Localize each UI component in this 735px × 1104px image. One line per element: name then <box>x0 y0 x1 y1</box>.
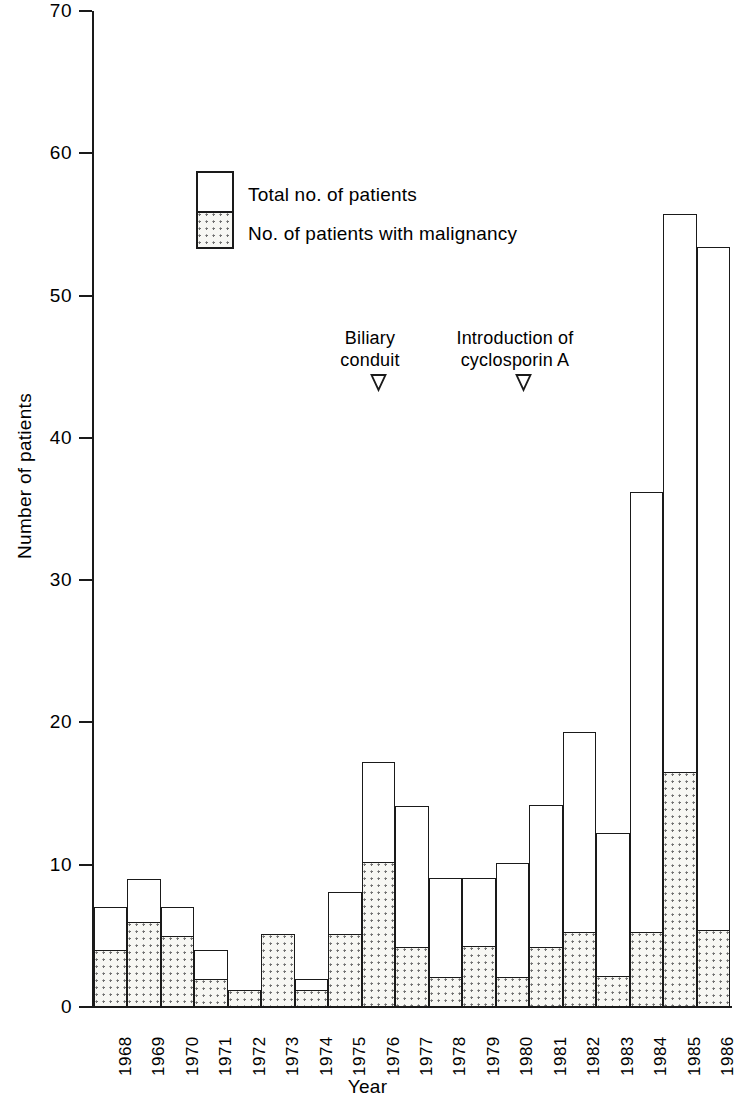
annotation-cyclosporin-line2: cyclosporin A <box>461 350 570 370</box>
x-axis-tick-label: 1986 <box>719 1006 735 1076</box>
bar-group[interactable] <box>697 11 730 1007</box>
legend-label-total: Total no. of patients <box>248 185 417 204</box>
x-axis-tick-label: 1977 <box>418 1006 435 1076</box>
x-axis-tick-label: 1979 <box>485 1006 502 1076</box>
x-axis-tick-label: 1974 <box>318 1006 335 1076</box>
x-axis-tick-label: 1983 <box>619 1006 636 1076</box>
bar-segment-total <box>630 492 663 1007</box>
bar-group[interactable] <box>261 11 294 1007</box>
bar-group[interactable] <box>295 11 328 1007</box>
legend-label-malignancy: No. of patients with malignancy <box>248 224 517 243</box>
x-axis-tick-label: 1970 <box>184 1006 201 1076</box>
annotation-biliary-line1: Biliary <box>345 328 395 348</box>
x-axis-tick-label: 1971 <box>217 1006 234 1076</box>
annotation-biliary-line2: conduit <box>340 350 399 370</box>
x-axis-tick-label: 1980 <box>518 1006 535 1076</box>
y-axis-tick <box>79 10 92 12</box>
bar-segment-malignancy <box>194 979 227 1007</box>
bar-group[interactable] <box>529 11 562 1007</box>
bar-group[interactable] <box>94 11 127 1007</box>
y-axis-tick <box>79 864 92 866</box>
bar-segment-malignancy <box>161 936 194 1007</box>
y-axis-tick-label: 50 <box>12 286 72 305</box>
bar-segment-malignancy <box>663 772 696 1007</box>
y-axis-tick-label: 10 <box>12 855 72 874</box>
bar-segment-malignancy <box>395 947 428 1007</box>
y-axis-tick <box>79 437 92 439</box>
chart-figure: 010203040506070 Number of patients 19681… <box>0 0 735 1104</box>
bar-segment-malignancy <box>261 934 294 1007</box>
legend-swatch-malignancy-fill <box>198 211 232 247</box>
x-axis-tick-label: 1972 <box>251 1006 268 1076</box>
bar-segment-malignancy <box>697 930 730 1007</box>
y-axis-tick-label: 70 <box>12 1 72 20</box>
x-axis-tick-label: 1984 <box>652 1006 669 1076</box>
bar-group[interactable] <box>362 11 395 1007</box>
bar-group[interactable] <box>194 11 227 1007</box>
y-axis-tick <box>79 579 92 581</box>
bar-group[interactable] <box>328 11 361 1007</box>
x-axis-tick-label: 1968 <box>117 1006 134 1076</box>
x-axis-tick-label: 1973 <box>284 1006 301 1076</box>
x-axis-tick-labels: 1968196919701971197219731974197519761977… <box>94 1010 730 1080</box>
y-axis-title: Number of patients <box>14 366 36 586</box>
bar-segment-malignancy <box>563 932 596 1007</box>
bar-group[interactable] <box>429 11 462 1007</box>
x-axis-tick-label: 1981 <box>552 1006 569 1076</box>
bar-segment-malignancy <box>127 922 160 1007</box>
x-axis-tick-label: 1982 <box>585 1006 602 1076</box>
annotation-cyclosporin-line1: Introduction of <box>456 328 573 348</box>
bar-segment-malignancy <box>295 990 328 1007</box>
bar-group[interactable] <box>496 11 529 1007</box>
bar-segment-malignancy <box>362 862 395 1007</box>
bar-segment-malignancy <box>228 990 261 1007</box>
y-axis-tick-labels: 010203040506070 <box>0 0 72 1104</box>
legend-swatch <box>196 171 234 249</box>
y-axis-tick <box>79 152 92 154</box>
bar-segment-total <box>697 247 730 1007</box>
bar-segment-malignancy <box>429 977 462 1007</box>
bar-segment-malignancy <box>328 934 361 1007</box>
bar-segment-malignancy <box>596 976 629 1007</box>
bar-group[interactable] <box>395 11 428 1007</box>
bar-group[interactable] <box>630 11 663 1007</box>
chart-legend: Total no. of patients No. of patients wi… <box>196 171 546 251</box>
y-axis-tick <box>79 721 92 723</box>
bar-segment-malignancy <box>462 946 495 1007</box>
x-axis-tick-label: 1985 <box>686 1006 703 1076</box>
y-axis-tick <box>79 295 92 297</box>
y-axis-tick-label: 60 <box>12 143 72 162</box>
annotation-biliary-conduit: Biliary conduit <box>300 328 440 373</box>
bar-group[interactable] <box>161 11 194 1007</box>
bar-group[interactable] <box>228 11 261 1007</box>
annotation-cyclosporin-a: Introduction of cyclosporin A <box>420 328 610 373</box>
bar-segment-malignancy <box>94 950 127 1007</box>
plot-area <box>94 11 730 1007</box>
bar-segment-malignancy <box>496 977 529 1007</box>
x-axis-title: Year <box>0 1076 735 1098</box>
bar-group[interactable] <box>462 11 495 1007</box>
x-axis-tick-label: 1976 <box>385 1006 402 1076</box>
y-axis-tick <box>79 1006 92 1008</box>
bar-segment-malignancy <box>529 947 562 1007</box>
y-axis-tick-label: 0 <box>12 997 72 1016</box>
bar-group[interactable] <box>596 11 629 1007</box>
x-axis-tick-label: 1975 <box>351 1006 368 1076</box>
x-axis-tick-label: 1978 <box>451 1006 468 1076</box>
x-axis-tick-label: 1969 <box>150 1006 167 1076</box>
bar-group[interactable] <box>663 11 696 1007</box>
bar-segment-malignancy <box>630 932 663 1007</box>
bar-group[interactable] <box>127 11 160 1007</box>
bar-group[interactable] <box>563 11 596 1007</box>
y-axis-tick-label: 20 <box>12 712 72 731</box>
